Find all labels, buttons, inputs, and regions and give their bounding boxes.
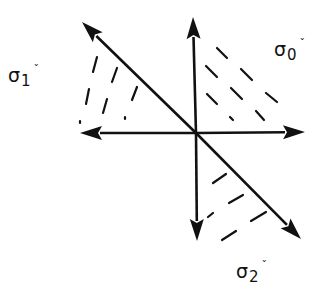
- dual-mark-icon: ˇ: [300, 37, 306, 50]
- axis-down-arrow: [190, 133, 204, 241]
- diagonal-down-right-arrow: [196, 133, 301, 239]
- arrowhead-icon: [187, 17, 201, 39]
- sigma-symbol: σ: [274, 38, 286, 60]
- sigma-symbol: σ: [236, 260, 248, 282]
- subscript: 0: [287, 46, 297, 64]
- arrowhead-icon: [80, 126, 102, 140]
- arrowhead-icon: [283, 125, 305, 139]
- axis-up-arrow: [187, 17, 201, 133]
- sigma0-cone-hatching: [206, 48, 277, 120]
- sigma-symbol: σ: [8, 64, 20, 86]
- arrowhead-icon: [190, 219, 204, 241]
- sigma2-cone-hatching: [208, 174, 266, 240]
- axis-right-arrow: [196, 125, 305, 139]
- subscript: 1: [21, 72, 31, 90]
- hatch-group: [80, 48, 277, 240]
- label-sigma1: σ1ˇ: [8, 66, 39, 85]
- subscript: 2: [249, 268, 259, 286]
- axes-group: [80, 17, 305, 241]
- axis-left-arrow: [80, 126, 196, 140]
- cone-diagram: σ1ˇ σ0ˇ σ2ˇ: [0, 0, 329, 305]
- dual-mark-icon: ˇ: [34, 63, 40, 76]
- label-sigma2: σ2ˇ: [236, 262, 267, 281]
- dual-mark-icon: ˇ: [262, 259, 268, 272]
- diagonal-up-left-arrow: [82, 22, 196, 133]
- label-sigma0: σ0ˇ: [274, 40, 305, 59]
